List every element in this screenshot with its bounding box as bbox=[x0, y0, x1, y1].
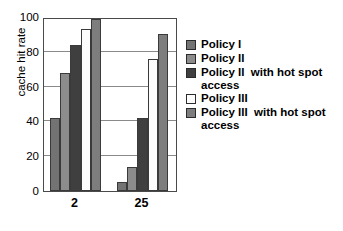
legend-item: Policy II bbox=[186, 52, 341, 65]
legend-label: Policy I bbox=[201, 38, 241, 51]
legend-label: Policy III with hot spot access bbox=[201, 106, 326, 131]
x-tick-label: 25 bbox=[135, 196, 149, 210]
legend-swatch-icon bbox=[186, 54, 196, 64]
legend-swatch-icon bbox=[186, 108, 196, 118]
legend-item: Policy III bbox=[186, 92, 341, 105]
bar bbox=[158, 34, 168, 191]
legend-item: Policy II with hot spot access bbox=[186, 66, 341, 91]
y-tick-label: 0 bbox=[11, 186, 39, 198]
y-tick-label: 100 bbox=[11, 12, 39, 24]
legend-label: Policy II with hot spot access bbox=[201, 66, 322, 91]
bar bbox=[50, 118, 60, 191]
bar bbox=[70, 45, 80, 191]
bar bbox=[148, 59, 158, 191]
y-axis-tick-labels: 020406080100 bbox=[9, 0, 39, 231]
legend-item: Policy I bbox=[186, 38, 341, 51]
bar bbox=[127, 167, 137, 191]
y-tick-label: 40 bbox=[11, 117, 39, 129]
legend-swatch-icon bbox=[186, 68, 196, 78]
y-tick-label: 60 bbox=[11, 82, 39, 94]
legend: Policy IPolicy IIPolicy II with hot spot… bbox=[186, 38, 341, 132]
plot-area bbox=[43, 18, 177, 192]
bar bbox=[117, 182, 127, 191]
bar bbox=[137, 118, 147, 191]
gridline bbox=[44, 51, 176, 52]
x-tick-label: 2 bbox=[71, 196, 78, 210]
legend-label: Policy II bbox=[201, 52, 244, 65]
bar bbox=[81, 29, 91, 191]
legend-swatch-icon bbox=[186, 40, 196, 50]
y-tick-label: 20 bbox=[11, 151, 39, 163]
y-tick-label: 80 bbox=[11, 47, 39, 59]
legend-label: Policy III bbox=[201, 92, 248, 105]
bar-chart: cache hit rate 020406080100 225 Policy I… bbox=[0, 0, 343, 231]
legend-item: Policy III with hot spot access bbox=[186, 106, 341, 131]
bar bbox=[60, 73, 70, 191]
legend-swatch-icon bbox=[186, 94, 196, 104]
bar bbox=[91, 19, 101, 191]
